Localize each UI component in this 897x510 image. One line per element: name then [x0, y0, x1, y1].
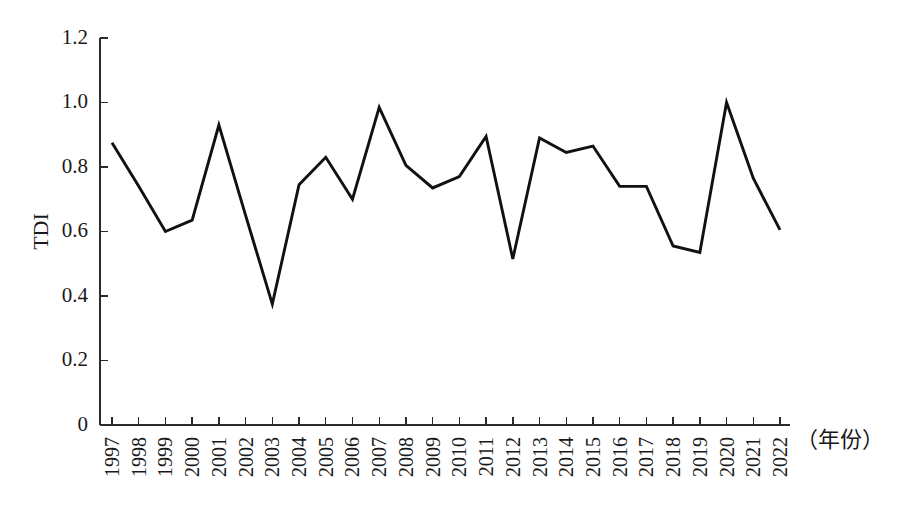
x-tick-label: 2013	[529, 437, 551, 477]
x-tick-label: 2009	[422, 437, 444, 477]
x-tick-label: 2015	[582, 437, 604, 477]
x-tick-label: 2002	[235, 437, 257, 477]
x-tick-label: 2004	[288, 437, 310, 477]
x-tick-label: 2010	[448, 437, 470, 477]
chart-figure: 00.20.40.60.81.01.2 19971998199920002001…	[0, 0, 897, 510]
tdi-series-line	[112, 103, 780, 305]
x-tick-label: 1997	[101, 437, 123, 477]
x-axis-title: （年份）	[796, 427, 884, 452]
x-tick-label: 1998	[128, 437, 150, 477]
y-tick-label: 0.8	[62, 154, 88, 178]
x-tick-label: 2018	[662, 437, 684, 477]
y-axis-title: TDI	[28, 213, 53, 250]
y-axis-ticks	[100, 38, 108, 361]
x-axis-tick-labels: 1997199819992000200120022003200420052006…	[101, 437, 791, 477]
x-tick-label: 2006	[341, 437, 363, 477]
y-axis-tick-labels: 00.20.40.60.81.01.2	[62, 25, 89, 436]
y-tick-label: 1.2	[62, 25, 88, 49]
x-tick-label: 2020	[716, 437, 738, 477]
x-tick-label: 2021	[742, 437, 764, 477]
x-tick-label: 1999	[154, 437, 176, 477]
x-tick-label: 2003	[261, 437, 283, 477]
y-tick-label: 0.4	[62, 283, 89, 307]
x-tick-label: 2014	[555, 437, 577, 477]
tdi-line-chart: 00.20.40.60.81.01.2 19971998199920002001…	[0, 0, 897, 510]
x-tick-label: 2008	[395, 437, 417, 477]
x-tick-label: 2005	[315, 437, 337, 477]
y-tick-label: 1.0	[62, 89, 88, 113]
x-tick-label: 2007	[368, 437, 390, 477]
x-tick-label: 2001	[208, 437, 230, 477]
y-tick-label: 0.6	[62, 218, 88, 242]
x-tick-label: 2017	[635, 437, 657, 477]
x-axis-ticks	[112, 417, 780, 425]
x-tick-label: 2000	[181, 437, 203, 477]
y-tick-label: 0.2	[62, 347, 88, 371]
x-tick-label: 2019	[689, 437, 711, 477]
x-tick-label: 2012	[502, 437, 524, 477]
x-tick-label: 2016	[609, 437, 631, 477]
x-tick-label: 2022	[769, 437, 791, 477]
y-tick-label: 0	[78, 412, 89, 436]
x-tick-label: 2011	[475, 437, 497, 476]
